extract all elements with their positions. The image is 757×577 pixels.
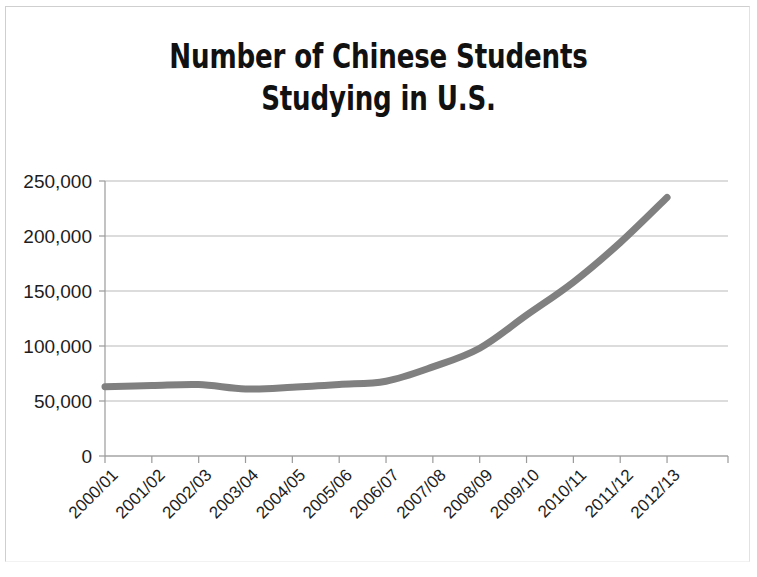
x-tick-label: 2012/13: [627, 465, 684, 522]
y-tick-label: 250,000: [23, 171, 92, 192]
data-series: [105, 198, 667, 389]
y-tick-label: 0: [81, 446, 92, 467]
x-tick-label: 2001/02: [112, 465, 169, 522]
y-axis: [99, 181, 105, 456]
x-tick-label: 2004/05: [252, 465, 309, 522]
x-tick-label: 2000/01: [65, 465, 122, 522]
x-tick-label: 2007/08: [393, 465, 450, 522]
x-tick-label: 2009/10: [486, 465, 543, 522]
x-tick-label: 2002/03: [159, 465, 216, 522]
gridlines: [105, 181, 728, 456]
x-tick-label: 2005/06: [299, 465, 356, 522]
series-line: [105, 198, 667, 389]
chart-figure: Number of Chinese Students Studying in U…: [0, 0, 757, 577]
y-tick-label: 50,000: [34, 391, 92, 412]
x-tick-labels: 2000/012001/022002/032003/042004/052005/…: [65, 465, 684, 522]
x-axis: [105, 456, 728, 463]
x-tick-label: 2006/07: [346, 465, 403, 522]
line-chart-plot: 050,000100,000150,000200,000250,000 2000…: [0, 0, 757, 577]
y-tick-label: 100,000: [23, 336, 92, 357]
x-tick-label: 2003/04: [205, 465, 262, 522]
x-tick-label: 2011/12: [581, 465, 637, 521]
x-tick-label: 2008/09: [440, 465, 497, 522]
y-tick-labels: 050,000100,000150,000200,000250,000: [23, 171, 92, 467]
y-tick-label: 200,000: [23, 226, 92, 247]
y-tick-label: 150,000: [23, 281, 92, 302]
x-tick-label: 2010/11: [534, 465, 590, 521]
